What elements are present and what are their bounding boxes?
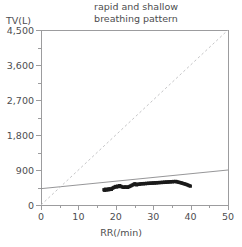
x-tick-minor [135,205,136,208]
identity-reference-line [41,30,228,205]
x-tick-major [116,205,117,210]
y-tick-label: 0 [28,200,34,211]
chart-container: rapid and shallow breathing pattern TV(L… [0,0,242,247]
x-tick-label: 10 [72,211,84,222]
x-tick-label: 40 [185,211,197,222]
y-tick-label: 4,500 [7,25,34,36]
x-tick-major [228,205,229,210]
data-series-layer [41,30,228,205]
x-tick-major [78,205,79,210]
data-point [189,185,192,188]
plot-area: 09001,8002,7003,6004,500 01020304050 [41,30,228,205]
x-tick-minor [209,205,210,208]
frame-right-border [228,30,229,206]
x-tick-minor [97,205,98,208]
y-tick-label: 1,800 [7,130,34,141]
y-tick-label: 3,600 [7,60,34,71]
x-axis-label: RR(/min) [0,227,242,238]
x-tick-major [41,205,42,210]
x-tick-minor [172,205,173,208]
chart-title: rapid and shallow breathing pattern [66,1,206,25]
x-tick-major [191,205,192,210]
y-tick-label: 2,700 [7,95,34,106]
x-tick-major [153,205,154,210]
x-tick-label: 30 [147,211,159,222]
x-tick-label: 0 [38,211,44,222]
x-tick-minor [60,205,61,208]
x-tick-label: 50 [222,211,234,222]
x-tick-label: 20 [110,211,122,222]
y-tick-label: 900 [16,165,34,176]
